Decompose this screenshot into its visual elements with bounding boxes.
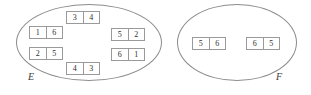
domino-left-value: 4 bbox=[67, 63, 84, 74]
domino-left-value: 6 bbox=[247, 38, 264, 49]
domino-left-value: 6 bbox=[112, 49, 129, 60]
domino-tile: 2 5 bbox=[29, 47, 63, 60]
set-diagram: 3 4 1 6 5 2 2 5 6 1 4 3 5 6 6 5 E F bbox=[0, 0, 311, 95]
domino-tile: 5 2 bbox=[111, 28, 145, 41]
domino-tile: 6 5 bbox=[246, 37, 280, 50]
domino-left-value: 5 bbox=[193, 38, 210, 49]
domino-left-value: 5 bbox=[112, 29, 129, 40]
domino-right-value: 5 bbox=[47, 48, 63, 59]
domino-tile: 5 6 bbox=[192, 37, 226, 50]
set-label-e: E bbox=[28, 72, 34, 82]
domino-right-value: 6 bbox=[47, 27, 63, 38]
domino-right-value: 5 bbox=[264, 38, 280, 49]
domino-right-value: 4 bbox=[84, 12, 100, 23]
domino-tile: 6 1 bbox=[111, 48, 145, 61]
domino-left-value: 1 bbox=[30, 27, 47, 38]
domino-right-value: 3 bbox=[84, 63, 100, 74]
domino-right-value: 6 bbox=[210, 38, 226, 49]
domino-tile: 3 4 bbox=[66, 11, 100, 24]
domino-tile: 4 3 bbox=[66, 62, 100, 75]
domino-left-value: 3 bbox=[67, 12, 84, 23]
domino-right-value: 1 bbox=[129, 49, 145, 60]
domino-right-value: 2 bbox=[129, 29, 145, 40]
set-label-f: F bbox=[276, 72, 282, 82]
domino-tile: 1 6 bbox=[29, 26, 63, 39]
domino-left-value: 2 bbox=[30, 48, 47, 59]
